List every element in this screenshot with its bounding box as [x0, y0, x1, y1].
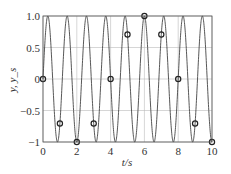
- y-tick-label: 0: [35, 73, 41, 85]
- y-tick-labels: −1−0.500.51.0: [20, 10, 40, 148]
- y-axis-label: y, y_s: [6, 68, 18, 93]
- x-tick-label: 2: [74, 145, 80, 157]
- x-tick-label: 10: [207, 145, 219, 157]
- y-tick-label: 1.0: [26, 10, 40, 22]
- x-tick-label: 8: [175, 145, 181, 157]
- y-tick-label: −1: [28, 136, 40, 148]
- x-tick-label: 4: [108, 145, 114, 157]
- x-tick-label: 6: [142, 145, 148, 157]
- chart: 0246810 −1−0.500.51.0 t/s y, y_s: [0, 0, 231, 174]
- x-axis-label: t/s: [122, 156, 132, 168]
- x-tick-label: 0: [40, 145, 46, 157]
- y-tick-label: 0.5: [26, 42, 40, 54]
- y-tick-label: −0.5: [20, 105, 40, 117]
